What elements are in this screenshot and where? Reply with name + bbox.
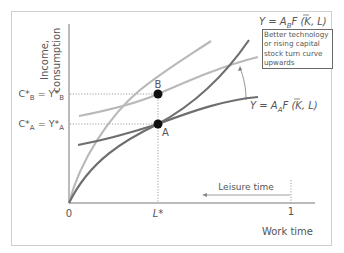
point-a-label: A (162, 127, 169, 138)
cb-label: C*B = Y*B (18, 88, 64, 102)
annotation-line: upwards (264, 58, 331, 67)
shift-arrowhead-icon (238, 66, 242, 71)
one-label: 1 (288, 206, 294, 217)
shift-arrow (240, 68, 246, 100)
x-axis-title: Work time (262, 226, 313, 237)
origin-label: 0 (66, 208, 72, 219)
annotation-box: Better technology or rising capital stoc… (262, 29, 333, 69)
curve-a-label: Y = AAF (K, L) (250, 100, 318, 114)
lstar-label: L* (153, 208, 164, 219)
point-b-label: B (155, 79, 162, 90)
leisure-arrowhead-icon (202, 193, 207, 197)
svg-text:consumption: consumption (51, 28, 62, 93)
curve-light-flat (79, 57, 258, 116)
curve-b-label: Y = ABF (K, L) (259, 16, 327, 30)
annotation-line: Better technology (264, 30, 331, 39)
leisure-label: Leisure time (218, 182, 274, 192)
svg-text:Income,: Income, (39, 40, 50, 80)
y-axis-title: Income, consumption (39, 28, 62, 93)
curve-light-steep (69, 41, 211, 203)
ca-label: C*A = Y*A (18, 118, 64, 132)
annotation-line: or rising capital (264, 39, 331, 48)
point-b (154, 90, 163, 99)
annotation-line: stock turn curve (264, 49, 331, 58)
